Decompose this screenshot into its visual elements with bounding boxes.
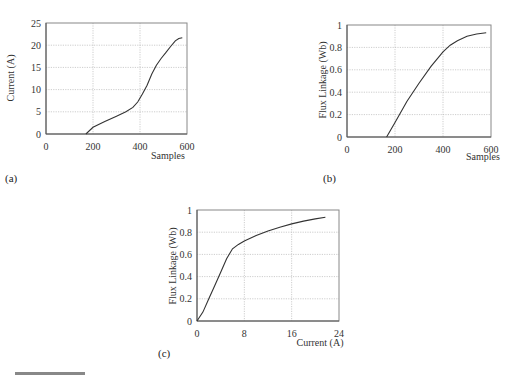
y-tick-label: 0.8 xyxy=(180,227,193,238)
chart-b: 00.20.40.60.810200400600SamplesFlux Link… xyxy=(317,20,500,186)
y-tick-label: 0 xyxy=(337,132,342,143)
y-axis-label: Current (A) xyxy=(5,55,17,102)
plot-area xyxy=(197,210,339,321)
y-tick-label: 10 xyxy=(31,84,41,95)
x-tick-label: 0 xyxy=(195,328,200,339)
y-tick-label: 5 xyxy=(36,106,41,117)
gridlines xyxy=(347,25,491,137)
y-tick-label: 0.4 xyxy=(180,271,193,282)
y-axis-label: Flux Linkage (Wb) xyxy=(317,41,329,118)
x-tick-label: 8 xyxy=(242,328,247,339)
x-tick-label: 400 xyxy=(436,144,451,155)
x-tick-label: 200 xyxy=(86,141,101,152)
y-tick-label: 0.4 xyxy=(330,87,343,98)
plot-area xyxy=(46,23,187,134)
data-series-line xyxy=(387,33,487,137)
data-series-line xyxy=(197,217,325,321)
panel-label: (b) xyxy=(323,172,336,185)
chart-a: 05101520250200400600SamplesCurrent (A)(a… xyxy=(5,18,195,186)
y-tick-label: 0 xyxy=(187,316,192,327)
y-tick-label: 0.6 xyxy=(330,64,343,75)
x-tick-label: 200 xyxy=(388,144,403,155)
gridlines xyxy=(46,23,187,134)
x-tick-label: 16 xyxy=(287,328,297,339)
y-tick-label: 1 xyxy=(187,205,192,216)
x-axis-label: Current (A) xyxy=(297,337,344,349)
y-tick-label: 0.8 xyxy=(330,42,343,53)
x-tick-label: 400 xyxy=(133,141,148,152)
x-axis-label: Samples xyxy=(151,150,185,161)
y-tick-label: 1 xyxy=(337,20,342,31)
x-tick-label: 0 xyxy=(345,144,350,155)
x-tick-label: 0 xyxy=(44,141,49,152)
y-tick-label: 0.2 xyxy=(330,109,343,120)
y-axis-label: Flux Linkage (Wb) xyxy=(167,227,179,304)
y-tick-label: 20 xyxy=(31,40,41,51)
panel-label: (c) xyxy=(158,347,171,360)
footnote-rule xyxy=(15,372,85,375)
y-tick-label: 15 xyxy=(31,62,41,73)
figure-canvas: 05101520250200400600SamplesCurrent (A)(a… xyxy=(0,0,509,381)
data-series-line xyxy=(86,38,182,134)
y-tick-label: 0 xyxy=(36,129,41,140)
chart-c: 00.20.40.60.81081624Current (A)Flux Link… xyxy=(158,205,344,361)
gridlines xyxy=(197,210,339,321)
x-axis-label: Samples xyxy=(466,151,500,162)
panel-label: (a) xyxy=(5,172,18,185)
y-tick-label: 25 xyxy=(31,18,41,29)
plot-area xyxy=(347,25,491,137)
y-tick-label: 0.6 xyxy=(180,249,193,260)
y-tick-label: 0.2 xyxy=(180,293,193,304)
